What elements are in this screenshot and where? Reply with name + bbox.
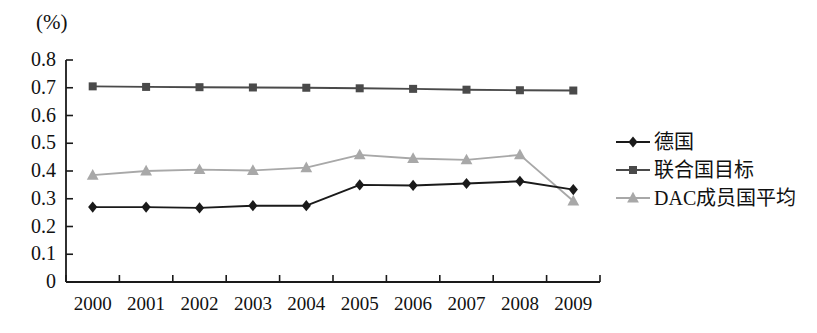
y-axis-tick-label: 0.5 [10, 131, 56, 154]
y-axis-tick-label: 0.6 [10, 104, 56, 127]
square-marker-icon [614, 160, 652, 180]
x-axis-tick-label: 2005 [333, 293, 386, 315]
diamond-marker-icon [614, 132, 652, 152]
legend-item-0[interactable]: 德国 [614, 128, 814, 156]
series-2 [87, 149, 579, 206]
data-point-marker [354, 149, 366, 160]
legend-item-2[interactable]: DAC成员国平均 [614, 184, 814, 212]
legend-label: DAC成员国平均 [652, 188, 796, 208]
data-point-marker [462, 178, 471, 189]
data-point-marker [302, 84, 310, 92]
data-point-marker [628, 136, 637, 147]
data-point-marker [88, 201, 97, 212]
chart-figure: (%) 0.80.70.60.50.40.30.20.10 2000200120… [0, 0, 817, 333]
data-point-marker [569, 184, 578, 195]
data-point-marker [196, 83, 204, 91]
data-point-marker [516, 86, 524, 94]
y-axis-tick-label: 0.8 [10, 48, 56, 71]
data-point-marker [515, 176, 524, 187]
data-point-marker [142, 201, 151, 212]
chart-legend: 德国联合国目标DAC成员国平均 [614, 128, 814, 212]
data-point-marker [356, 84, 364, 92]
series-line [93, 86, 574, 90]
y-axis-tick-label: 0.2 [10, 215, 56, 238]
data-point-marker [142, 83, 150, 91]
y-axis-tick-label: 0 [10, 270, 56, 293]
y-axis-tick-label: 0.7 [10, 76, 56, 99]
y-axis-tick-label: 0.4 [10, 159, 56, 182]
y-axis-tick-label: 0.3 [10, 187, 56, 210]
legend-label: 德国 [652, 132, 694, 152]
series-0 [88, 176, 578, 214]
x-axis-tick-label: 2001 [119, 293, 172, 315]
data-point-marker [514, 149, 526, 160]
x-axis-tick-label: 2009 [547, 293, 600, 315]
series-layer [87, 82, 579, 213]
data-point-marker [355, 179, 364, 190]
x-axis-tick-label: 2003 [226, 293, 279, 315]
data-point-marker [409, 85, 417, 93]
y-axis-tick-label: 0.1 [10, 242, 56, 265]
x-axis-tick-label: 2006 [386, 293, 439, 315]
x-axis-tick-label: 2002 [173, 293, 226, 315]
data-point-marker [89, 82, 97, 90]
data-point-marker [249, 83, 257, 91]
series-1 [89, 82, 578, 94]
x-axis-tick-label: 2000 [66, 293, 119, 315]
data-point-marker [629, 166, 637, 174]
data-point-marker [463, 86, 471, 94]
legend-item-1[interactable]: 联合国目标 [614, 156, 814, 184]
series-line [93, 181, 574, 208]
x-axis-tick-label: 2007 [440, 293, 493, 315]
series-line [93, 155, 574, 201]
data-point-marker [248, 200, 257, 211]
data-point-marker [409, 180, 418, 191]
data-point-marker [569, 87, 577, 95]
data-point-marker [195, 202, 204, 213]
data-point-marker [302, 200, 311, 211]
x-axis-tick-label: 2004 [280, 293, 333, 315]
legend-label: 联合国目标 [652, 160, 754, 180]
triangle-marker-icon [614, 188, 652, 208]
x-axis-tick-label: 2008 [493, 293, 546, 315]
